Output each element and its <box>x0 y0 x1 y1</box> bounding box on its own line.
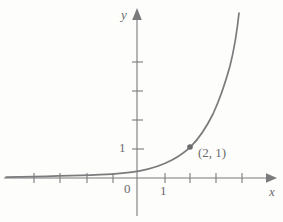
marked-point-dot <box>187 144 193 150</box>
exponential-graph-figure: y x 1 0 1 (2, 1) <box>0 0 283 222</box>
origin-label: 0 <box>124 182 131 195</box>
y-axis-label: y <box>121 8 127 21</box>
plot-canvas <box>0 0 283 222</box>
y-axis-tick-label-1: 1 <box>119 141 126 154</box>
x-axis-arrow-icon <box>266 173 277 183</box>
marked-point-label: (2, 1) <box>198 146 226 159</box>
y-axis-ticks <box>132 62 144 149</box>
x-axis-tick-label-1: 1 <box>160 184 167 197</box>
x-axis-label: x <box>269 185 275 198</box>
y-axis-arrow-icon <box>132 8 142 20</box>
